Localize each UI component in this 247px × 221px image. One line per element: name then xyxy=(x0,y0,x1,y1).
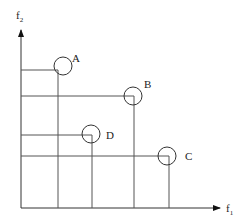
x-axis-label: f1 xyxy=(226,202,234,217)
point-c xyxy=(21,147,176,208)
label-a: A xyxy=(72,52,80,64)
pareto-diagram: f2 f1 A B D C xyxy=(0,0,247,221)
point-d xyxy=(21,125,100,208)
y-axis-label: f2 xyxy=(16,9,24,24)
label-d: D xyxy=(106,129,114,141)
point-b xyxy=(21,87,142,208)
label-b: B xyxy=(144,78,151,90)
point-a xyxy=(21,57,72,208)
label-c: C xyxy=(185,150,192,162)
